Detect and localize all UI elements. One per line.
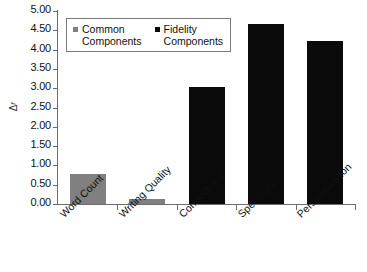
y-axis-title-subscript: f [10,103,17,105]
y-axis-tick-label: 1.00 [30,158,51,169]
y-axis-tick-label: 3.00 [30,81,51,92]
y-axis-tick-label: 1.50 [30,139,51,150]
legend-entry-fidelity: Fidelity Components [155,23,224,47]
y-axis-tick-label: 5.00 [30,4,51,15]
bar-specificity [248,24,284,204]
legend-label-fidelity: Fidelity Components [164,23,224,47]
y-axis-tick-label: 4.50 [30,23,51,34]
legend-swatch-fidelity-icon [155,27,160,32]
x-axis-tick-mark [355,205,356,210]
chart-legend: Common Components Fidelity Components [66,18,231,52]
y-axis-tick-label: 4.00 [30,43,51,54]
y-axis-title-symbol: Δ [8,105,19,112]
bar-chart: Δf 0.000.501.001.502.002.503.003.504.004… [0,0,367,272]
y-axis-tick-label: 0.00 [30,197,51,208]
legend-label-common: Common Components [82,23,142,47]
y-axis-title: Δf [2,96,24,118]
legend-entry-common: Common Components [73,23,142,47]
y-axis-tick-label: 3.50 [30,62,51,73]
y-axis-tick-label: 0.50 [30,178,51,189]
y-axis-tick-label: 2.00 [30,120,51,131]
y-axis-tick-label: 2.50 [30,101,51,112]
y-axis-tick-mark [53,204,58,205]
legend-swatch-common-icon [73,27,78,32]
